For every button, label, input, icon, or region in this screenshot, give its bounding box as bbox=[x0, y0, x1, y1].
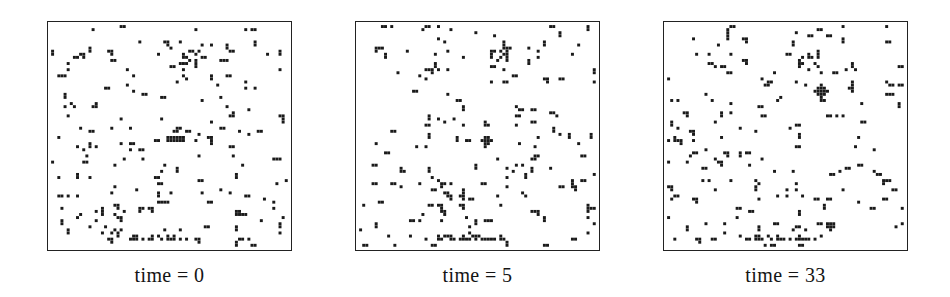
panel-group-time-0: time = 0 bbox=[47, 21, 292, 287]
lattice-panel-time-0 bbox=[47, 21, 292, 251]
panel-group-time-33: time = 33 bbox=[663, 21, 908, 287]
simulation-figure: time = 0 time = 5 time = 33 bbox=[0, 0, 950, 297]
lattice-cells-time-0 bbox=[48, 22, 291, 250]
lattice-cells-time-5 bbox=[356, 22, 599, 250]
panel-group-time-5: time = 5 bbox=[355, 21, 600, 287]
panel-caption-time-0: time = 0 bbox=[47, 263, 292, 287]
panel-caption-time-33: time = 33 bbox=[663, 263, 908, 287]
panel-caption-time-5: time = 5 bbox=[355, 263, 600, 287]
lattice-cells-time-33 bbox=[664, 22, 907, 250]
lattice-panel-time-5 bbox=[355, 21, 600, 251]
lattice-panel-time-33 bbox=[663, 21, 908, 251]
